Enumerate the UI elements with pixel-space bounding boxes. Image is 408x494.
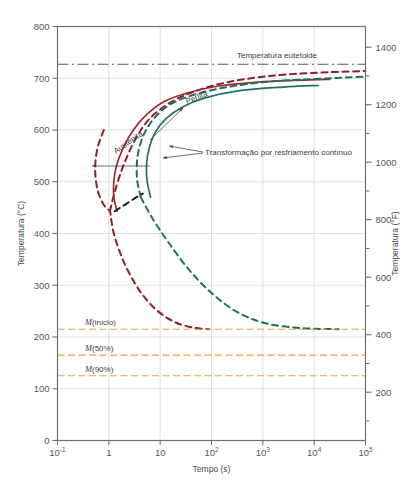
eutectoid-temperature-label: Temperatura eutetoide [237, 51, 318, 60]
y-tick-label-left: 500 [34, 176, 50, 187]
x-axis-title: Tempo (s) [193, 464, 231, 474]
y-tick-label-left: 800 [34, 21, 50, 32]
martensite-label-m-start: M(início) [84, 318, 116, 327]
y-tick-label-left: 200 [34, 331, 50, 342]
x-tick-label: 1 [106, 447, 111, 458]
y-tick-label-right: 400 [376, 329, 392, 340]
martensite-label-m-90: M(90%) [84, 365, 114, 374]
y-tick-label-right: 800 [376, 214, 392, 225]
y-tick-label-right: 1400 [376, 42, 397, 53]
y-axis-title-right: Temperatura (°F) [390, 211, 400, 276]
y-tick-label-left: 400 [34, 228, 50, 239]
y-tick-label-left: 700 [34, 73, 50, 84]
ttt-cct-diagram: M(início)M(50%)M(90%) 10-111010210310410… [0, 0, 408, 494]
x-tick-label: 10 [155, 447, 166, 458]
y-tick-label-right: 600 [376, 272, 392, 283]
y-tick-label-left: 300 [34, 280, 50, 291]
martensite-label-m-50: M(50%) [84, 344, 114, 353]
y-tick-label-left: 100 [34, 383, 50, 394]
y-tick-label-left: 600 [34, 124, 50, 135]
y-axis-title-left: Temperatura (°C) [16, 201, 26, 266]
y-tick-label-right: 1000 [376, 157, 397, 168]
y-tick-label-right: 200 [376, 387, 392, 398]
continuous-cooling-label: Transformação por resfriamento contínuo [205, 148, 352, 157]
chart-svg: M(início)M(50%)M(90%) 10-111010210310410… [0, 0, 408, 494]
y-tick-label-left: 0 [44, 435, 49, 446]
chart-background [0, 0, 408, 494]
y-tick-label-right: 1200 [376, 99, 397, 110]
